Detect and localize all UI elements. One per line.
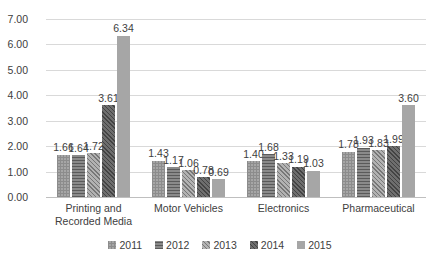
bar[interactable]: 1.78 [342, 152, 355, 197]
y-axis-tick-label: 0.00 [0, 192, 28, 203]
bar-slot: 6.34 [117, 19, 130, 197]
chart-legend: 20112012201320142015 [0, 240, 440, 251]
bar[interactable]: 3.60 [402, 105, 415, 197]
bar-group: 1.431.171.060.780.69 [141, 19, 236, 197]
category-label: Pharmaceutical [331, 202, 426, 228]
bar-group: 1.401.681.331.191.03 [236, 19, 331, 197]
bar-slot: 1.78 [342, 19, 355, 197]
bar-group: 1.781.931.831.993.60 [331, 19, 426, 197]
bar-slot: 0.69 [212, 19, 225, 197]
y-axis-tick-label: 6.00 [0, 39, 28, 50]
bar-value-label: 3.61 [98, 93, 118, 104]
bar-slot: 1.99 [387, 19, 400, 197]
bar-slot: 1.93 [357, 19, 370, 197]
legend-swatch-icon [202, 241, 210, 249]
legend-item-2012[interactable]: 2012 [155, 240, 189, 251]
category-label: Electronics [236, 202, 331, 228]
y-axis-tick-label: 5.00 [0, 65, 28, 76]
bar-groups: 1.661.641.723.616.341.431.171.060.780.69… [46, 19, 426, 197]
legend-item-2015[interactable]: 2015 [297, 240, 331, 251]
category-label-line: Recorded Media [46, 215, 141, 228]
bar-value-label: 3.60 [398, 93, 418, 104]
bar-value-label: 0.69 [208, 167, 228, 178]
category-label-line: Pharmaceutical [331, 202, 426, 215]
y-axis-tick-label: 1.00 [0, 167, 28, 178]
bar[interactable]: 1.93 [357, 148, 370, 197]
bar[interactable]: 1.99 [387, 146, 400, 197]
category-label-line: Motor Vehicles [141, 202, 236, 215]
category-label-line: Printing and [46, 202, 141, 215]
bar-slot: 1.40 [247, 19, 260, 197]
legend-label: 2013 [213, 240, 236, 251]
bar-slot: 3.60 [402, 19, 415, 197]
category-label: Printing andRecorded Media [46, 202, 141, 228]
bar[interactable]: 0.69 [212, 179, 225, 197]
legend-label: 2014 [261, 240, 284, 251]
bar-slot: 1.72 [87, 19, 100, 197]
legend-swatch-icon [108, 241, 116, 249]
y-axis-tick-label: 2.00 [0, 141, 28, 152]
category-label: Motor Vehicles [141, 202, 236, 228]
axis-baseline [46, 197, 426, 198]
legend-item-2014[interactable]: 2014 [250, 240, 284, 251]
bar[interactable]: 1.72 [87, 153, 100, 197]
bar-value-label: 6.34 [113, 23, 133, 34]
bar-slot: 1.64 [72, 19, 85, 197]
bar-group: 1.661.641.723.616.34 [46, 19, 141, 197]
bar-value-label: 1.72 [83, 141, 103, 152]
bar-chart: 7.006.005.004.003.002.001.000.00 Printin… [0, 0, 440, 271]
bar[interactable]: 1.83 [372, 150, 385, 197]
legend-swatch-icon [155, 241, 163, 249]
bar-value-label: 1.99 [383, 134, 403, 145]
bar-slot: 1.03 [307, 19, 320, 197]
legend-label: 2012 [166, 240, 189, 251]
y-axis-tick-label: 7.00 [0, 14, 28, 25]
y-axis-tick-label: 4.00 [0, 90, 28, 101]
legend-swatch-icon [297, 241, 305, 249]
bar-slot: 1.68 [262, 19, 275, 197]
legend-label: 2011 [119, 240, 142, 251]
legend-swatch-icon [250, 241, 258, 249]
bar[interactable]: 1.43 [152, 161, 165, 197]
bar[interactable]: 1.64 [72, 155, 85, 197]
bar[interactable]: 3.61 [102, 105, 115, 197]
bar-slot: 1.17 [167, 19, 180, 197]
bar[interactable]: 1.33 [277, 163, 290, 197]
bar[interactable]: 6.34 [117, 36, 130, 197]
bar-slot: 1.43 [152, 19, 165, 197]
bar-slot: 1.66 [57, 19, 70, 197]
bar[interactable]: 1.03 [307, 171, 320, 197]
bar-value-label: 1.03 [303, 158, 323, 169]
bar[interactable]: 1.19 [292, 167, 305, 197]
legend-item-2013[interactable]: 2013 [202, 240, 236, 251]
bar-slot: 1.33 [277, 19, 290, 197]
bar[interactable]: 1.17 [167, 167, 180, 197]
category-axis-labels: Printing andRecorded MediaMotor Vehicles… [46, 202, 426, 228]
bar[interactable]: 1.40 [247, 161, 260, 197]
bar-slot: 1.83 [372, 19, 385, 197]
category-label-line: Electronics [236, 202, 331, 215]
bar-slot: 1.19 [292, 19, 305, 197]
bar[interactable]: 1.66 [57, 155, 70, 197]
bar[interactable]: 0.78 [197, 177, 210, 197]
bar-slot: 3.61 [102, 19, 115, 197]
y-axis-tick-label: 3.00 [0, 116, 28, 127]
legend-label: 2015 [308, 240, 331, 251]
legend-item-2011[interactable]: 2011 [108, 240, 142, 251]
